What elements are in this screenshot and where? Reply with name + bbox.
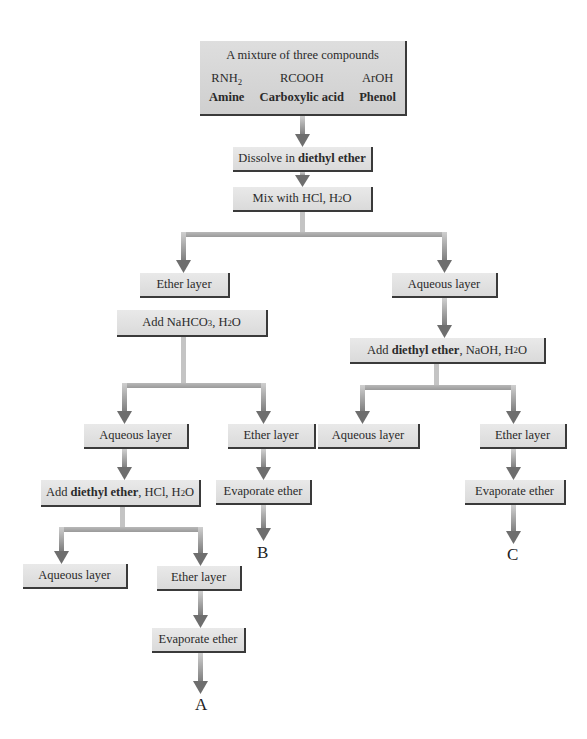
step-text-bold: diethyl ether xyxy=(298,151,366,166)
step-add-ether-hcl: Add diethyl ether, HCl, H2O xyxy=(41,480,201,507)
step-dissolve: Dissolve in diethyl ether xyxy=(233,147,373,172)
step-text: O xyxy=(185,485,194,500)
ether-layer-3: Ether layer xyxy=(480,424,567,449)
result-c: C xyxy=(507,545,518,565)
aqueous-layer-3: Aqueous layer xyxy=(318,424,420,449)
compound-formula: RNH2 xyxy=(211,71,242,86)
step-text: Add NaHCO xyxy=(142,315,208,330)
ether-layer-4: Ether layer xyxy=(157,566,242,591)
compound-formula: RCOOH xyxy=(280,71,324,86)
compound-carboxylic-acid: RCOOH Carboxylic acid xyxy=(260,71,344,105)
compound-name: Carboxylic acid xyxy=(260,90,344,105)
step-text: , HCl, H xyxy=(138,485,180,500)
ether-layer-1: Ether layer xyxy=(140,273,230,298)
step-text: Mix with HCl, H xyxy=(253,191,338,206)
compound-name: Amine xyxy=(209,90,244,105)
compound-name: Phenol xyxy=(359,90,396,105)
aqueous-layer-1: Aqueous layer xyxy=(392,273,498,298)
compound-amine: RNH2 Amine xyxy=(209,71,244,105)
step-text: , NaOH, H xyxy=(459,343,513,358)
aqueous-layer-2: Aqueous layer xyxy=(84,424,189,449)
step-text: Add xyxy=(367,343,392,358)
step-evaporate-a: Evaporate ether xyxy=(152,628,246,653)
step-text: , H xyxy=(212,315,227,330)
step-evaporate-b: Evaporate ether xyxy=(216,480,312,505)
step-text: Add xyxy=(46,485,71,500)
aqueous-layer-4: Aqueous layer xyxy=(23,564,128,589)
step-text: Dissolve in xyxy=(238,151,298,166)
step-add-ether-naoh: Add diethyl ether, NaOH, H2O xyxy=(350,338,546,364)
step-mix-hcl: Mix with HCl, H2O xyxy=(233,187,373,212)
compound-formula: ArOH xyxy=(362,71,393,86)
mixture-title: A mixture of three compounds xyxy=(226,48,379,63)
step-text-bold: diethyl ether xyxy=(392,343,460,358)
step-evaporate-c: Evaporate ether xyxy=(465,480,566,505)
compound-phenol: ArOH Phenol xyxy=(359,71,396,105)
ether-layer-2: Ether layer xyxy=(228,424,316,449)
step-text: O xyxy=(232,315,241,330)
step-text: O xyxy=(342,191,351,206)
mixture-box: A mixture of three compounds RNH2 Amine … xyxy=(200,41,407,116)
result-a: A xyxy=(195,695,207,715)
step-text-bold: diethyl ether xyxy=(71,485,139,500)
step-add-nahco3: Add NaHCO3, H2O xyxy=(117,310,268,337)
result-b: B xyxy=(257,543,268,563)
step-text: O xyxy=(518,343,527,358)
